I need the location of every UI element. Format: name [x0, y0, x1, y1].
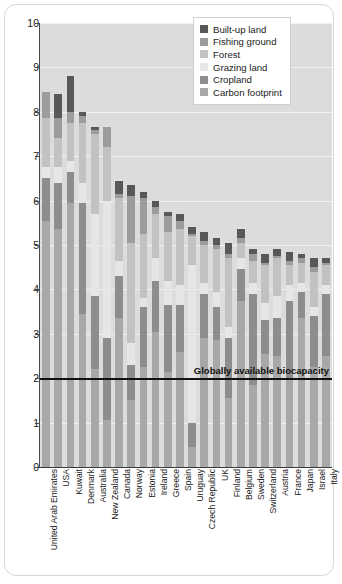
x-axis-label-australia: Australia — [98, 469, 108, 502]
bar-austria — [273, 249, 281, 467]
bar-segment-fishing-ground — [237, 238, 245, 242]
bar-segment-forest — [67, 123, 75, 161]
bar-segment-fishing-ground — [213, 245, 221, 249]
bar-segment-cropland — [79, 203, 87, 314]
bar-greece — [164, 212, 172, 467]
bar-segment-grazing-land — [164, 281, 172, 305]
bar-segment-cropland — [200, 294, 208, 338]
legend-label: Forest — [213, 49, 240, 60]
bar-segment-built-up-land — [249, 249, 257, 253]
bar-norway — [127, 185, 135, 467]
bar-segment-forest — [152, 214, 160, 258]
x-axis-label-usa: USA — [61, 469, 71, 487]
bar-segment-forest — [261, 265, 269, 303]
bar-segment-fishing-ground — [115, 194, 123, 198]
bar-segment-fishing-ground — [91, 130, 99, 134]
bar-segment-grazing-land — [261, 303, 269, 321]
bar-segment-forest — [54, 138, 62, 167]
legend-label: Built-up land — [213, 24, 266, 35]
bar-belgium — [237, 229, 245, 467]
bar-segment-cropland — [261, 320, 269, 353]
bar-segment-cropland — [164, 305, 172, 372]
bar-segment-grazing-land — [310, 307, 318, 316]
bar-segment-fishing-ground — [322, 263, 330, 265]
bar-segment-forest — [140, 234, 148, 298]
legend-label: Fishing ground — [213, 36, 276, 47]
x-axis-label-israel: Israel — [317, 469, 327, 490]
bar-segment-built-up-land — [54, 94, 62, 118]
bar-segment-carbon-footprint — [164, 372, 172, 467]
bar-segment-forest — [103, 147, 111, 200]
bar-segment-cropland — [115, 276, 123, 318]
legend-label: Cropland — [213, 74, 252, 85]
bar-israel — [310, 258, 318, 467]
bar-segment-forest — [237, 243, 245, 259]
bar-segment-built-up-land — [127, 185, 135, 196]
bar-segment-grazing-land — [127, 343, 135, 365]
x-axis-label-greece: Greece — [171, 469, 181, 497]
bar-segment-cropland — [140, 307, 148, 367]
x-axis-label-japan: Japan — [305, 469, 315, 492]
bar-uk — [213, 238, 221, 467]
x-axis-label-finland: Finland — [232, 469, 242, 497]
bar-segment-fishing-ground — [164, 216, 172, 232]
bar-segment-forest — [164, 232, 172, 281]
bar-segment-carbon-footprint — [225, 398, 233, 467]
bar-segment-built-up-land — [67, 76, 75, 112]
bar-new-zealand — [103, 127, 111, 467]
bar-segment-cropland — [42, 178, 50, 220]
x-axis-label-new-zealand: New Zealand — [110, 469, 120, 520]
bar-segment-built-up-land — [261, 254, 269, 263]
bar-segment-carbon-footprint — [213, 340, 221, 467]
bar-segment-built-up-land — [237, 229, 245, 238]
bar-segment-built-up-land — [140, 192, 148, 199]
x-axis-label-canada: Canada — [122, 469, 132, 499]
x-axis-label-france: France — [293, 469, 303, 496]
bar-segment-cropland — [67, 172, 75, 203]
bar-segment-forest — [79, 123, 87, 183]
bar-segment-grazing-land — [286, 285, 294, 301]
bar-segment-cropland — [298, 292, 306, 319]
legend-swatch-forest — [200, 50, 208, 58]
bar-segment-forest — [91, 134, 99, 214]
x-axis-label-estonia: Estonia — [147, 469, 157, 498]
bar-segment-forest — [200, 245, 208, 283]
legend-swatch-fishing-ground — [200, 38, 208, 46]
bar-segment-cropland — [322, 294, 330, 356]
bar-segment-fishing-ground — [261, 263, 269, 265]
bar-segment-fishing-ground — [176, 221, 184, 230]
bar-segment-built-up-land — [310, 258, 318, 267]
x-axis-label-italy: Italy — [329, 469, 339, 485]
bar-segment-cropland — [273, 318, 281, 356]
bar-segment-fishing-ground — [273, 256, 281, 258]
bar-denmark — [79, 112, 87, 467]
x-axis-label-kuwait: Kuwait — [74, 469, 84, 495]
bar-czech-republic — [200, 232, 208, 467]
bar-segment-forest — [249, 261, 257, 283]
bar-finland — [225, 243, 233, 467]
bar-segment-carbon-footprint — [54, 229, 62, 467]
legend-item: Fishing ground — [200, 36, 282, 49]
bar-segment-forest — [286, 265, 294, 285]
bar-segment-built-up-land — [91, 127, 99, 129]
bar-segment-fishing-ground — [54, 118, 62, 138]
legend-label: Grazing land — [213, 62, 267, 73]
bar-segment-forest — [273, 258, 281, 296]
bar-segment-grazing-land — [42, 167, 50, 178]
bar-segment-fishing-ground — [140, 198, 148, 234]
bar-segment-forest — [188, 236, 196, 265]
bar-segment-built-up-land — [79, 112, 87, 116]
bar-united-arab-emirates — [42, 92, 50, 467]
x-axis-label-denmark: Denmark — [86, 469, 96, 504]
bar-segment-forest — [298, 263, 306, 283]
legend-item: Carbon footprint — [200, 86, 282, 99]
bar-kuwait — [67, 76, 75, 467]
bar-segment-built-up-land — [188, 227, 196, 234]
bar-segment-fishing-ground — [298, 258, 306, 262]
bar-segment-cropland — [188, 423, 196, 447]
legend-item: Built-up land — [200, 23, 282, 36]
bar-estonia — [140, 192, 148, 467]
legend-item: Grazing land — [200, 61, 282, 74]
bar-switzerland — [261, 254, 269, 467]
x-axis-label-norway: Norway — [134, 469, 144, 498]
